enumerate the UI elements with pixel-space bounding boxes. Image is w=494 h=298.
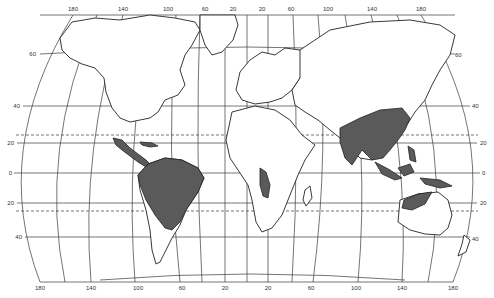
svg-text:100: 100 <box>163 6 174 12</box>
svg-text:60: 60 <box>308 285 315 291</box>
svg-text:60: 60 <box>29 51 36 57</box>
svg-text:0: 0 <box>482 170 486 176</box>
svg-text:20: 20 <box>222 285 229 291</box>
svg-text:180: 180 <box>448 285 459 291</box>
svg-text:60: 60 <box>179 285 186 291</box>
svg-text:100: 100 <box>133 285 144 291</box>
latitude-labels-right: 60 40 20 0 20 40 <box>455 52 487 242</box>
svg-text:20: 20 <box>265 285 272 291</box>
longitude-labels-bottom: 180 140 100 60 20 20 60 100 140 180 <box>35 285 459 291</box>
svg-text:20: 20 <box>230 6 237 12</box>
svg-text:140: 140 <box>367 6 378 12</box>
svg-text:20: 20 <box>480 140 487 146</box>
indonesia-shaded <box>375 162 402 180</box>
new-zealand <box>458 235 470 256</box>
svg-text:20: 20 <box>259 6 266 12</box>
svg-text:20: 20 <box>7 200 14 206</box>
svg-text:180: 180 <box>416 6 427 12</box>
svg-text:140: 140 <box>397 285 408 291</box>
svg-text:40: 40 <box>15 234 22 240</box>
svg-text:60: 60 <box>202 6 209 12</box>
svg-text:60: 60 <box>288 6 295 12</box>
svg-text:180: 180 <box>68 6 79 12</box>
svg-text:40: 40 <box>472 103 479 109</box>
longitude-labels-top: 180 140 100 60 20 20 60 100 140 180 <box>68 6 427 12</box>
svg-text:140: 140 <box>86 285 97 291</box>
latitude-labels-left: 60 40 20 0 20 40 <box>7 51 36 240</box>
svg-text:180: 180 <box>35 285 46 291</box>
svg-text:140: 140 <box>118 6 129 12</box>
svg-text:20: 20 <box>7 140 14 146</box>
philippines-shaded <box>408 146 416 162</box>
svg-text:60: 60 <box>455 52 462 58</box>
world-map: 180 140 100 60 20 20 60 100 140 180 180 … <box>0 0 494 298</box>
svg-text:0: 0 <box>9 170 13 176</box>
svg-text:40: 40 <box>13 103 20 109</box>
svg-text:20: 20 <box>480 200 487 206</box>
svg-text:100: 100 <box>351 285 362 291</box>
greenland <box>200 15 238 55</box>
africa <box>226 106 315 232</box>
svg-text:100: 100 <box>323 6 334 12</box>
new-guinea-shaded <box>420 178 452 188</box>
svg-text:40: 40 <box>472 236 479 242</box>
